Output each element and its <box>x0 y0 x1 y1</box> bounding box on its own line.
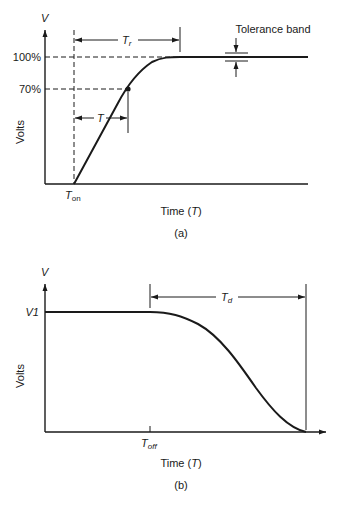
y-axis-label-a: Volts <box>14 120 26 144</box>
rise-curve <box>74 57 308 184</box>
tolerance-band-label: Tolerance band <box>235 23 310 35</box>
delay-time-label: Td <box>221 291 233 305</box>
x-axis-label-b: Time (T) <box>160 457 201 469</box>
level-70-label: 70% <box>19 83 41 95</box>
y-axis-label-b: Volts <box>14 364 26 388</box>
caption-a: (a) <box>174 227 187 239</box>
y-axis-symbol-b: V <box>41 266 50 278</box>
time-constant-label: T <box>97 112 105 124</box>
figure-a-rise-time: V Volts 100% 70% Tr T Tolerance band Ton <box>13 12 311 239</box>
x-axis-label-a: Time (T) <box>160 205 201 217</box>
level-100-label: 100% <box>13 51 41 63</box>
decay-curve <box>45 312 306 432</box>
figure-b-delay: V Volts V1 Toff Td Time (T) (b) <box>14 266 326 491</box>
t-on-label: Ton <box>65 189 81 203</box>
seventy-percent-point <box>125 86 130 91</box>
t-off-label: Toff <box>141 437 157 451</box>
y-axis-symbol-a: V <box>41 12 50 24</box>
caption-b: (b) <box>174 479 187 491</box>
rise-time-label: Tr <box>122 34 132 48</box>
figure-canvas: V Volts 100% 70% Tr T Tolerance band Ton <box>0 0 342 505</box>
v1-label: V1 <box>26 306 39 318</box>
